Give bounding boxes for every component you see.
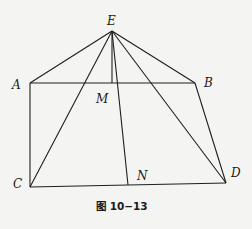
label-d: D xyxy=(230,166,241,180)
segment-ea xyxy=(30,31,112,83)
label-a: A xyxy=(11,78,21,92)
label-c: C xyxy=(13,177,22,191)
segment-eb xyxy=(112,31,195,83)
label-n: N xyxy=(136,169,148,183)
segment-en xyxy=(112,31,128,185)
segment-ec xyxy=(30,31,112,187)
label-e: E xyxy=(106,14,116,28)
segment-bd xyxy=(195,83,226,183)
segment-ed xyxy=(112,31,226,183)
label-m: M xyxy=(95,92,109,106)
figure-caption: 图 10−13 xyxy=(96,200,148,212)
geometry-figure: E A B M C N D 图 10−13 xyxy=(0,0,252,229)
label-b: B xyxy=(203,76,213,90)
